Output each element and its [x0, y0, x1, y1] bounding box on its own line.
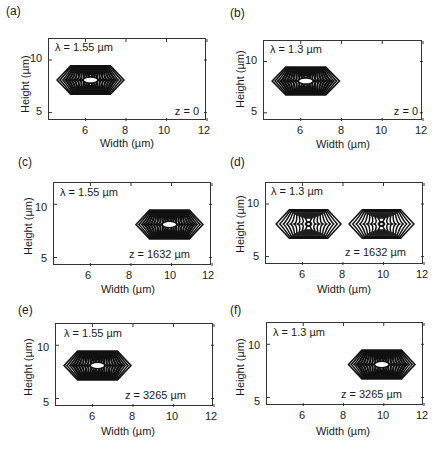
- panel-label: (e): [18, 303, 33, 317]
- y-axis-label: Height (µm): [234, 338, 246, 396]
- mode-contour: [276, 210, 341, 238]
- x-tick: 12: [415, 124, 427, 136]
- panel-label: (f): [230, 303, 241, 317]
- wavelength-label: λ = 1.55 µm: [64, 327, 122, 339]
- x-tick: 12: [198, 124, 210, 136]
- y-tick: 5: [253, 250, 259, 262]
- mode-contour: [64, 351, 131, 380]
- mode-contour: [136, 210, 203, 239]
- x-tick: 6: [82, 124, 88, 136]
- x-tick: 12: [416, 409, 428, 421]
- y-tick: 5: [251, 105, 257, 117]
- plot-area: λ = 1.55 µm z = 3265 µm: [55, 323, 213, 406]
- x-tick: 10: [158, 124, 170, 136]
- x-tick: 6: [297, 124, 303, 136]
- y-tick: 10: [30, 52, 42, 64]
- x-tick: 8: [340, 409, 346, 421]
- mode-contour: [272, 67, 339, 95]
- y-axis-label: Height (µm): [22, 197, 34, 255]
- wavelength-label: λ = 1.3 µm: [271, 185, 323, 197]
- y-axis-label: Height (µm): [19, 55, 31, 113]
- x-axis-label: Width (µm): [317, 283, 371, 295]
- x-tick: 10: [377, 268, 389, 280]
- y-tick: 5: [41, 252, 47, 264]
- y-tick: 10: [37, 341, 49, 353]
- y-tick: 10: [35, 201, 47, 213]
- x-tick: 12: [416, 268, 428, 280]
- x-tick: 8: [122, 124, 128, 136]
- plot-area: λ = 1.55 µm z = 1632 µm: [53, 182, 211, 265]
- x-tick: 8: [129, 410, 135, 422]
- y-axis-label: Height (µm): [234, 195, 246, 253]
- z-label: z = 3265 µm: [125, 389, 186, 401]
- z-label: z = 0: [394, 105, 418, 117]
- x-tick: 6: [89, 410, 95, 422]
- y-tick: 10: [248, 339, 260, 351]
- x-tick: 6: [299, 268, 305, 280]
- plot-area: λ = 1.3 µm z = 0: [263, 40, 422, 120]
- mode-contour: [349, 210, 414, 238]
- y-tick: 10: [245, 54, 257, 66]
- x-tick: 12: [202, 269, 214, 281]
- y-axis-label: Height (µm): [234, 50, 246, 108]
- wavelength-label: λ = 1.55 µm: [55, 41, 113, 53]
- mode-contour: [57, 66, 124, 94]
- wavelength-label: λ = 1.3 µm: [270, 43, 322, 55]
- z-label: z = 0: [175, 105, 199, 117]
- panel-label: (d): [230, 155, 245, 169]
- z-label: z = 1632 µm: [345, 246, 406, 258]
- plot-area: λ = 1.55 µm z = 0: [48, 38, 206, 120]
- panel-label: (b): [230, 6, 245, 20]
- x-axis-label: Width (µm): [101, 425, 155, 437]
- mode-contour: [349, 350, 415, 379]
- y-tick: 10: [247, 197, 259, 209]
- panel-label: (a): [6, 4, 21, 18]
- z-label: z = 3265 µm: [341, 388, 402, 400]
- wavelength-label: λ = 1.3 µm: [273, 326, 325, 338]
- x-tick: 10: [164, 269, 176, 281]
- z-label: z = 1632 µm: [129, 248, 190, 260]
- x-tick: 8: [126, 269, 132, 281]
- x-tick: 6: [85, 269, 91, 281]
- x-axis-label: Width (µm): [101, 283, 155, 295]
- plot-area: λ = 1.3 µm z = 1632 µm: [265, 182, 423, 264]
- x-tick: 6: [299, 409, 305, 421]
- panel-label: (c): [18, 155, 32, 169]
- wavelength-label: λ = 1.55 µm: [60, 186, 118, 198]
- x-tick: 10: [166, 410, 178, 422]
- y-tick: 5: [254, 395, 260, 407]
- x-tick: 12: [205, 410, 217, 422]
- x-axis-label: Width (µm): [316, 138, 370, 150]
- x-axis-label: Width (µm): [316, 425, 370, 437]
- x-tick: 10: [375, 124, 387, 136]
- y-tick: 5: [36, 105, 42, 117]
- y-tick: 5: [43, 396, 49, 408]
- plot-area: λ = 1.3 µm z = 3265 µm: [266, 322, 423, 405]
- x-tick: 8: [338, 124, 344, 136]
- x-tick: 8: [339, 268, 345, 280]
- x-tick: 10: [377, 409, 389, 421]
- y-axis-label: Height (µm): [22, 338, 34, 396]
- x-axis-label: Width (µm): [100, 137, 154, 149]
